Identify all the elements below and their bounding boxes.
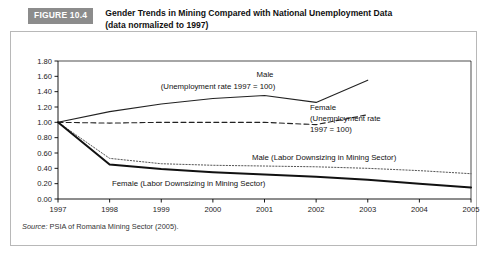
source-text: PSIA of Romania Mining Sector (2005). <box>47 222 178 231</box>
source-label: Source: <box>22 222 47 231</box>
figure-frame <box>10 31 477 246</box>
figure-title-line-1: Gender Trends in Mining Compared with Na… <box>105 8 392 18</box>
figure-title: Gender Trends in Mining Compared with Na… <box>105 8 392 31</box>
source-note: Source: PSIA of Romania Mining Sector (2… <box>22 222 179 231</box>
figure-title-line-2: (data normalized to 1997) <box>105 20 392 32</box>
figure-header: FIGURE 10.4 Gender Trends in Mining Comp… <box>28 8 472 32</box>
figure-number-badge: FIGURE 10.4 <box>28 8 93 24</box>
